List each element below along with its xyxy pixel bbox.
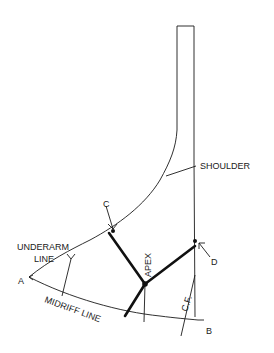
point-b-label: B [206,326,212,336]
point-d-label: D [211,257,218,267]
underarm-guide-line [62,259,71,296]
a-arrow-icon [29,275,33,280]
center-front-line [194,160,195,317]
dart-leg-midriff [125,284,145,316]
cf-label: C.F. [179,294,193,312]
apex-point [142,281,148,287]
midriff-label: MIDRIFF LINE [43,294,102,324]
dart-leg-c [109,233,145,284]
shoulder-pointer [166,166,196,176]
pattern-diagram: SHOULDER UNDERARM LINE C D A B APEX C.F.… [0,0,274,353]
apex-label: APEX [143,253,153,277]
point-d-dot [193,239,197,243]
d-arrow-icon [199,243,210,257]
underarm-arrow-icon [67,254,75,259]
armhole-curve [29,26,194,277]
underarm-label-1: UNDERARM [17,242,69,252]
point-a-label: A [18,276,24,286]
point-c-label: C [103,199,110,209]
underarm-label-2: LINE [34,254,54,264]
shoulder-label: SHOULDER [200,161,251,171]
c-arrow-icon [106,206,117,229]
apex-guide-line [144,284,145,322]
